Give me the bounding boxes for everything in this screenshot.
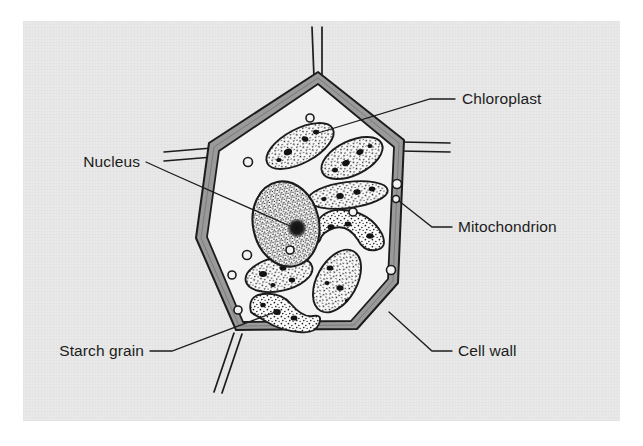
nucleolus: [288, 219, 307, 238]
mitochondrion: [393, 180, 402, 189]
label-chloroplast: Chloroplast: [462, 90, 542, 107]
stub-left: [164, 148, 212, 152]
stub-top: [312, 27, 314, 78]
label-nucleus: Nucleus: [83, 153, 140, 170]
stub-right: [400, 142, 450, 143]
mitochondrion: [393, 196, 400, 203]
label-cell-wall: Cell wall: [458, 342, 517, 359]
leader-mitochondrion: [399, 201, 452, 227]
mitochondrion: [228, 271, 236, 279]
mitochondrion: [387, 266, 396, 275]
mitochondrion: [349, 208, 357, 216]
mitochondrion: [234, 306, 242, 314]
mitochondrion: [306, 114, 314, 122]
stub-bottom-left-2: [222, 334, 242, 393]
leader-cell-wall: [389, 312, 452, 351]
mitochondrion: [286, 246, 294, 254]
stub-bottom-left: [214, 333, 234, 392]
plant-cell-diagram: Chloroplast Nucleus Mitochondrion Starch…: [0, 0, 643, 446]
mitochondrion: [243, 251, 252, 260]
figure-root: Chloroplast Nucleus Mitochondrion Starch…: [0, 0, 643, 446]
label-starch-grain: Starch grain: [59, 342, 144, 359]
label-mitochondrion: Mitochondrion: [458, 218, 557, 235]
stub-right-2: [400, 151, 450, 152]
mitochondrion: [244, 158, 253, 167]
